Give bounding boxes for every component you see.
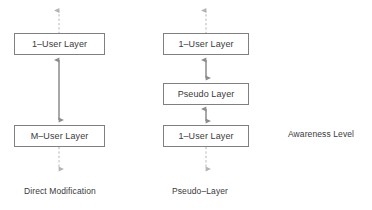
box-pseudo-layer[interactable]: Pseudo Layer [163, 83, 249, 105]
connector-right-top-inbound [198, 8, 214, 34]
box-label: 1–User Layer [32, 40, 87, 49]
caption-direct-modification: Direct Modification [24, 186, 96, 196]
connector-left-bottom-outbound [51, 147, 67, 173]
box-pseudo-1-user-layer-bottom[interactable]: 1–User Layer [163, 125, 249, 147]
box-label: Pseudo Layer [178, 90, 235, 99]
diagram-canvas: 1–User Layer M–User Layer [0, 0, 372, 210]
box-label: M–User Layer [31, 132, 89, 141]
connector-right-between-2-3 [198, 104, 214, 126]
connector-right-between-1-2 [198, 54, 214, 84]
connector-left-between-1-2 [51, 54, 67, 126]
box-label: 1–User Layer [178, 40, 233, 49]
connector-right-bottom-outbound [198, 147, 214, 173]
box-direct-1-user-layer[interactable]: 1–User Layer [14, 33, 105, 55]
connector-left-top-inbound [51, 8, 67, 34]
box-label: 1–User Layer [178, 132, 233, 141]
annotation-awareness-level: Awareness Level [288, 129, 354, 139]
box-direct-m-user-layer[interactable]: M–User Layer [14, 125, 105, 147]
box-pseudo-1-user-layer-top[interactable]: 1–User Layer [163, 33, 249, 55]
caption-pseudo-layer: Pseudo–Layer [172, 186, 228, 196]
